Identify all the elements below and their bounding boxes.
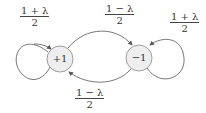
node-minus-one-label: −1 xyxy=(126,52,152,64)
fraction-numerator: 1 + λ xyxy=(20,5,49,17)
markov-chain-diagram: +1 −1 1 + λ 2 1 − λ 2 1 + λ 2 1 − λ 2 xyxy=(0,0,206,113)
edge-label-plus-self: 1 + λ 2 xyxy=(20,5,49,28)
fraction-denominator: 2 xyxy=(182,23,188,34)
fraction-numerator: 1 + λ xyxy=(170,11,199,23)
edge-minus-self-loop xyxy=(147,39,184,79)
fraction-numerator: 1 − λ xyxy=(105,3,134,15)
edge-label-minus-to-plus: 1 − λ 2 xyxy=(75,87,104,110)
fraction-denominator: 2 xyxy=(117,15,123,26)
fraction-denominator: 2 xyxy=(32,17,38,28)
edge-label-minus-self: 1 + λ 2 xyxy=(170,11,199,34)
edge-label-plus-to-minus: 1 − λ 2 xyxy=(105,3,134,26)
edge-plus-self-loop xyxy=(16,44,50,79)
fraction-denominator: 2 xyxy=(87,99,93,110)
node-plus-one-label: +1 xyxy=(47,53,73,65)
fraction-numerator: 1 − λ xyxy=(75,87,104,99)
edge-plus-to-minus xyxy=(68,31,132,48)
edge-minus-to-plus xyxy=(69,69,131,82)
